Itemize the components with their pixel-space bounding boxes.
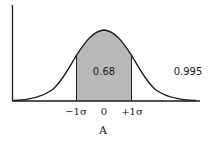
tick-plus-one-sigma: +1σ — [121, 106, 143, 117]
inner-area-label: 0.68 — [93, 66, 115, 77]
tick-zero: 0 — [101, 106, 107, 117]
tick-minus-one-sigma: −1σ — [65, 106, 87, 117]
outer-area-label: 0.995 — [174, 66, 203, 77]
normal-distribution-figure: 0.68 0.995 −1σ 0 +1σ A — [0, 0, 215, 149]
figure-caption: A — [99, 124, 107, 137]
